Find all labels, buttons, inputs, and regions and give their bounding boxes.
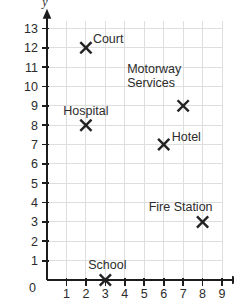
- x-tick-label: 4: [121, 287, 128, 300]
- y-tick-label: 6: [31, 157, 38, 171]
- x-tick-label: 5: [141, 287, 148, 300]
- y-tick-label: 1: [31, 254, 38, 268]
- y-tick-label: 10: [24, 80, 38, 94]
- x-tick-label: 2: [82, 287, 89, 300]
- x-tick-label: 7: [180, 287, 187, 300]
- coordinate-grid-chart: 123456789101112131234567890 yx CourtMoto…: [0, 0, 234, 300]
- data-point-label: Motorway: [127, 62, 182, 76]
- y-axis-name: y: [41, 0, 48, 9]
- x-axis-arrowhead: [232, 276, 234, 285]
- data-point-label: Fire Station: [149, 200, 213, 214]
- data-point-label: Hospital: [63, 104, 108, 118]
- y-tick-label: 5: [31, 177, 38, 191]
- x-tick-label: 6: [160, 287, 167, 300]
- y-tick-label: 9: [31, 99, 38, 113]
- origin-label: 0: [29, 281, 36, 295]
- data-point-label: Court: [93, 32, 124, 46]
- x-tick-label: 9: [219, 287, 226, 300]
- y-tick-label: 3: [31, 215, 38, 229]
- data-point-label: Hotel: [172, 130, 201, 144]
- x-tick-label: 3: [102, 287, 109, 300]
- data-point-label: School: [88, 258, 126, 272]
- y-tick-label: 8: [31, 119, 38, 133]
- y-tick-label: 11: [25, 61, 38, 75]
- y-tick-label: 2: [31, 235, 38, 249]
- data-point-label: Services: [127, 76, 175, 90]
- y-tick-label: 12: [24, 41, 38, 55]
- y-tick-label: 7: [31, 138, 38, 152]
- y-tick-label: 4: [31, 196, 38, 210]
- x-tick-label: 1: [63, 287, 70, 300]
- y-tick-label: 13: [24, 22, 38, 36]
- x-tick-label: 8: [199, 287, 206, 300]
